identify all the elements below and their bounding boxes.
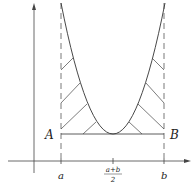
x-axis — [8, 158, 191, 164]
label-B: B — [169, 128, 179, 142]
label-mid-numerator: a+b — [106, 166, 121, 174]
label-b: b — [161, 170, 167, 181]
label-mid-denominator: 2 — [110, 176, 116, 184]
hatching-left — [61, 58, 96, 134]
label-A: A — [44, 128, 54, 142]
y-axis-arrow-icon — [32, 3, 36, 10]
hatching-right — [129, 58, 164, 134]
y-axis — [32, 3, 36, 173]
x-axis-arrow-icon — [184, 159, 191, 163]
diagram-canvas: A B a a+b 2 b — [0, 0, 195, 189]
diagram-svg: A B a a+b 2 b — [0, 0, 195, 189]
label-a: a — [58, 170, 64, 181]
